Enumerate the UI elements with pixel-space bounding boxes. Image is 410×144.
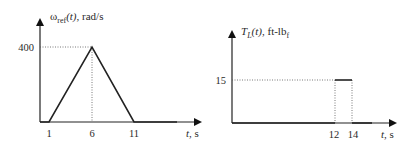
ytick-400: 400 [18, 42, 34, 53]
y-axis-label: ωref(t), rad/s [50, 10, 103, 25]
x-axis-label: t, s [186, 127, 199, 139]
y-axis-label: TL(t), ft-lbf [241, 25, 289, 40]
load-torque-chart: 15 12 14 TL(t), ft-lbf t, s [216, 25, 396, 140]
figure: 400 1 6 11 ωref(t), rad/s t, s 15 12 14 … [0, 0, 410, 144]
ytick-15: 15 [216, 75, 227, 86]
xtick-11: 11 [129, 128, 139, 139]
xtick-6: 6 [89, 128, 94, 139]
x-axis-label: t, s [381, 128, 394, 140]
speed-waveform [40, 47, 177, 122]
xtick-12: 12 [329, 129, 340, 140]
xtick-1: 1 [46, 128, 51, 139]
xtick-14: 14 [348, 129, 359, 140]
speed-reference-chart: 400 1 6 11 ωref(t), rad/s t, s [18, 10, 200, 139]
